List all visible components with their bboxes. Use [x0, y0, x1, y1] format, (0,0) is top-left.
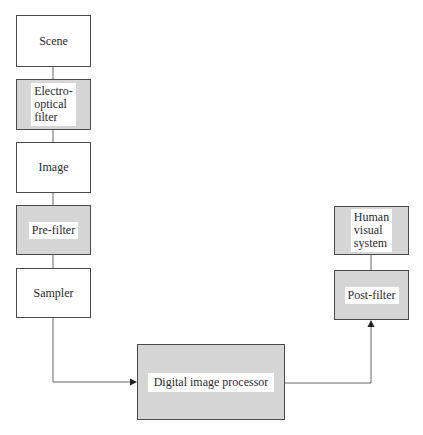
node-label: Post-filter: [345, 287, 399, 304]
node-label: Image: [36, 159, 72, 176]
node-label: Human visual system: [351, 209, 392, 252]
node-label: Electro- optical filter: [31, 83, 76, 126]
arrowhead-to-postfilter-icon: [368, 320, 375, 327]
node-label: Digital image processor: [148, 373, 275, 392]
node-post-filter: Post-filter: [334, 270, 409, 320]
node-pre-filter: Pre-filter: [16, 205, 91, 255]
node-digital-image-processor: Digital image processor: [137, 344, 285, 420]
node-image: Image: [16, 142, 91, 193]
node-electro-optical-filter: Electro- optical filter: [16, 79, 91, 130]
node-label: Pre-filter: [29, 222, 78, 239]
edge-dip-postfilter: [285, 327, 371, 383]
node-scene: Scene: [16, 15, 91, 67]
node-human-visual-system: Human visual system: [334, 206, 409, 255]
node-sampler: Sampler: [16, 268, 91, 318]
node-label: Scene: [36, 33, 71, 50]
node-label: Sampler: [31, 285, 77, 302]
edge-sampler-dip: [53, 318, 131, 382]
arrowhead-to-dip-icon: [130, 379, 137, 386]
